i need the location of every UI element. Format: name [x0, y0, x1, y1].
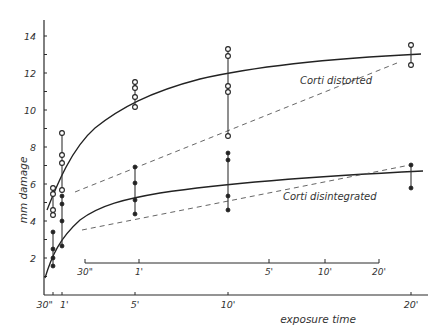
y-tick-labels: 2 4 6 8 10 12 14	[24, 31, 36, 264]
data-point	[60, 188, 65, 193]
data-point	[60, 244, 64, 248]
inset-tick-label: 10'	[318, 267, 332, 277]
data-point	[226, 194, 230, 198]
series-label-distorted: Corti distorted	[300, 75, 373, 86]
data-point	[133, 212, 137, 216]
series-disintegrated-points	[51, 151, 413, 268]
x-tick-label: 10'	[221, 299, 236, 310]
y-axis-label: mm damage	[17, 157, 29, 224]
y-tick-label: 4	[30, 216, 36, 227]
inset-tick-label: 1'	[135, 267, 143, 277]
x-tick-label: 20'	[404, 299, 419, 310]
data-point	[226, 84, 231, 89]
data-point	[51, 230, 55, 234]
data-point	[60, 161, 65, 166]
data-point	[226, 90, 231, 95]
data-point	[133, 86, 138, 91]
x-tick-label: 30"	[37, 299, 53, 310]
data-point	[60, 153, 65, 158]
x-tick-label: 5'	[131, 299, 140, 310]
y-tick-label: 10	[24, 105, 36, 116]
data-point	[409, 163, 413, 167]
y-tick-label: 8	[30, 142, 36, 153]
inset-tick-label: 5'	[265, 267, 273, 277]
x-tick-labels: 30" 1' 5' 10' 20'	[37, 299, 419, 310]
data-point	[133, 181, 137, 185]
data-point	[51, 213, 56, 218]
data-point	[409, 186, 413, 190]
data-point	[51, 186, 56, 191]
data-point	[226, 151, 230, 155]
data-point	[226, 47, 231, 52]
y-tick-label: 14	[24, 31, 36, 42]
y-tick-label: 2	[30, 253, 36, 264]
series-label-disintegrated: Corti disintegrated	[283, 191, 377, 202]
data-point	[409, 43, 414, 48]
data-point	[60, 202, 64, 206]
fit-curve-disintegrated	[45, 171, 423, 278]
data-point	[133, 80, 138, 85]
data-point	[60, 219, 64, 223]
inset-tick-label: 20'	[372, 267, 386, 277]
y-tick-label: 6	[30, 179, 36, 190]
data-point	[133, 198, 137, 202]
data-point	[226, 134, 231, 139]
x-tick-label: 1'	[60, 299, 69, 310]
inset-tick-label: 30"	[77, 267, 93, 277]
data-point	[133, 95, 138, 100]
data-point	[226, 158, 230, 162]
y-tick-label: 12	[24, 68, 36, 79]
data-point	[51, 256, 55, 260]
data-point	[133, 105, 138, 110]
data-point	[60, 131, 65, 136]
data-point	[51, 247, 55, 251]
data-point	[51, 264, 55, 268]
data-point	[409, 63, 414, 68]
data-point	[51, 208, 56, 213]
chart: 2 4 6 8 10 12 14 mm damage 30" 1' 5' 10'…	[0, 0, 444, 335]
data-point	[60, 194, 64, 198]
data-point	[133, 165, 137, 169]
data-point	[226, 54, 231, 59]
axes	[44, 20, 428, 295]
x-axis-label: exposure time	[280, 313, 356, 325]
data-point	[51, 192, 56, 197]
data-point	[226, 208, 230, 212]
inset-log-axis: 30" 1' 5' 10' 20'	[77, 259, 386, 277]
